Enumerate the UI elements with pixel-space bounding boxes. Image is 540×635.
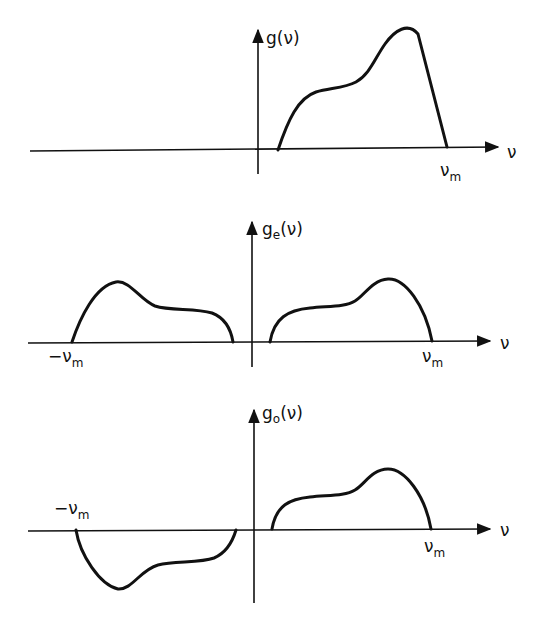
y-axis-label: go(ν)	[262, 403, 303, 426]
neg-vm-label: −νm	[48, 346, 83, 370]
curve-g	[278, 28, 447, 150]
even-odd-decomposition-figure: g(ν) ν νm ge(ν) ν −νm νm go(ν) ν −νm νm	[0, 0, 540, 635]
x-axis-label: ν	[500, 520, 510, 540]
x-axis	[28, 341, 490, 343]
y-axis-label: g(ν)	[266, 28, 300, 48]
y-axis-label: ge(ν)	[262, 219, 303, 242]
x-axis	[30, 147, 498, 151]
x-axis-label: ν	[500, 333, 510, 353]
x-axis-label: ν	[507, 142, 517, 162]
neg-vm-label: −νm	[54, 498, 89, 522]
x-axis	[28, 529, 490, 531]
vm-label: νm	[424, 536, 445, 560]
panel-original-spectrum: g(ν) ν νm	[30, 28, 517, 184]
vm-label: νm	[440, 160, 461, 184]
panel-odd-part: go(ν) ν −νm νm	[28, 403, 510, 603]
vm-label: νm	[422, 346, 443, 370]
panel-even-part: ge(ν) ν −νm νm	[28, 219, 510, 370]
curve-go-right	[272, 469, 431, 529]
curve-go-left	[76, 530, 236, 589]
curve-ge-left	[72, 282, 233, 342]
curve-ge-right	[270, 279, 432, 342]
